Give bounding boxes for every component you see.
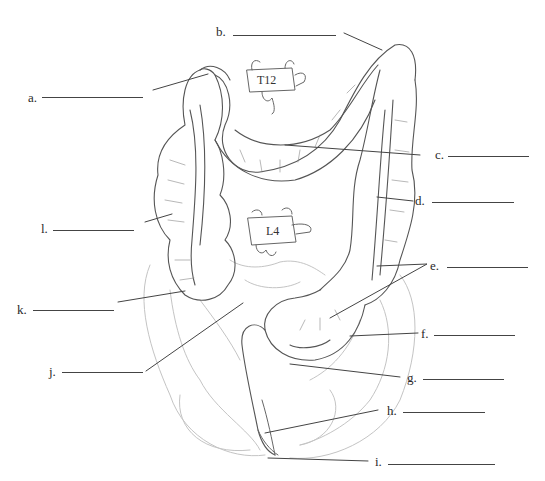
label-k: k. (17, 303, 27, 317)
label-c: c. (435, 148, 444, 162)
answer-blank-h[interactable] (403, 412, 485, 413)
label-a: a. (28, 91, 37, 105)
transverse-colon (200, 45, 416, 181)
answer-blank-f[interactable] (434, 335, 515, 336)
rectum (258, 400, 278, 455)
label-i: i. (375, 455, 382, 469)
label-h: h. (387, 404, 397, 418)
answer-blank-j[interactable] (62, 372, 143, 373)
label-j: j. (49, 365, 56, 379)
descending-colon (320, 70, 416, 305)
answer-blank-k[interactable] (33, 310, 114, 311)
label-g: g. (407, 371, 417, 385)
label-f: f. (421, 327, 429, 341)
answer-blank-c[interactable] (448, 156, 529, 157)
sigmoid-colon (242, 290, 365, 455)
answer-blank-e[interactable] (447, 267, 528, 268)
l4-vertebra-shape (248, 208, 311, 256)
label-b: b. (216, 25, 226, 39)
answer-blank-l[interactable] (53, 230, 134, 231)
l4-vertebra-label: L4 (266, 224, 279, 239)
answer-blank-i[interactable] (388, 464, 495, 465)
label-e: e. (430, 259, 439, 273)
answer-blank-d[interactable] (432, 202, 514, 203)
label-d: d. (415, 194, 425, 208)
answer-blank-a[interactable] (42, 97, 143, 98)
leader-lines (118, 33, 427, 461)
label-l: l. (41, 222, 48, 236)
t12-vertebra-label: T12 (257, 73, 276, 88)
answer-blank-g[interactable] (423, 379, 504, 380)
ascending-colon (154, 69, 235, 300)
pelvis-outline (144, 260, 415, 458)
answer-blank-b[interactable] (233, 35, 336, 36)
